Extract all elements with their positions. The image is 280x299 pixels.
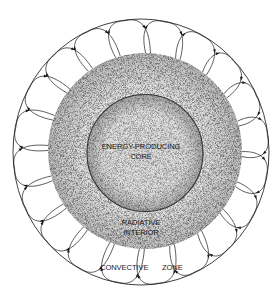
convection-loop <box>14 145 53 186</box>
flow-arrow-icon <box>237 226 241 229</box>
convective-label-word2: ZONE <box>162 263 183 272</box>
flow-arrow-icon <box>73 46 76 50</box>
flow-arrow-icon <box>39 220 43 223</box>
flow-arrow-icon <box>254 195 258 200</box>
flow-arrow-icon <box>235 229 238 233</box>
convective-label-word1: CONVECTIVE <box>100 263 148 272</box>
flow-arrow-icon <box>255 190 260 194</box>
flow-arrow-icon <box>23 184 28 188</box>
radiative-label-line2: INTERIOR <box>123 228 159 237</box>
core-label-line1: ENERGY-PRODUCING <box>102 142 181 151</box>
sun-structure-diagram: ENERGY-PRODUCING CORE RADIATIVE INTERIOR… <box>0 0 280 299</box>
radiative-label-line1: RADIATIVE <box>122 218 161 227</box>
core-label-line2: CORE <box>130 152 152 161</box>
flow-arrow-icon <box>107 29 111 34</box>
flow-arrow-icon <box>256 111 260 116</box>
